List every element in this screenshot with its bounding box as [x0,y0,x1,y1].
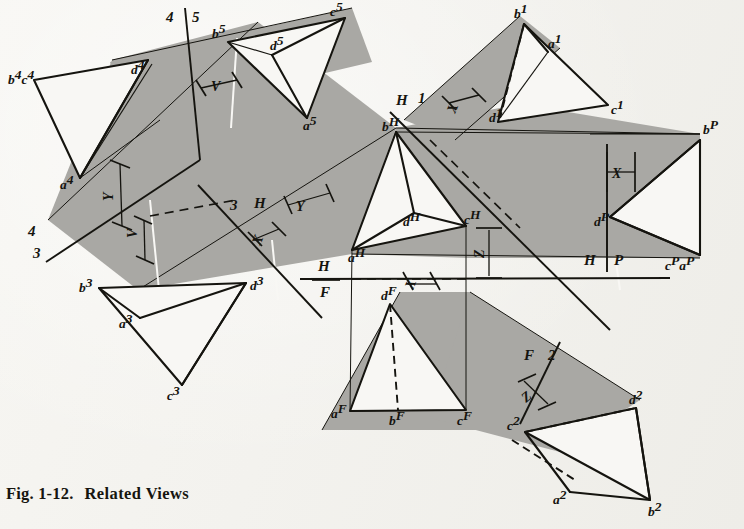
foldlabel-H-1H: H [395,92,409,108]
foldlabel-HF-H: H [317,258,331,274]
view2-label-b2: b2 [648,499,662,519]
caption-number: Fig. 1-12. [6,484,74,503]
foldlabel-HF-F: F [319,284,330,300]
foldlabel-3b: 3 [32,245,41,261]
view1-label-c1: c1 [611,97,624,117]
foldlabel-HP-H: H [583,252,597,268]
viewP-label-bP: bP [703,117,719,137]
view4-label-bc4: b4c4 [8,67,35,87]
foldlabel-HP-P: P [614,252,624,268]
foldlabel-F2-F: F [523,347,534,363]
foldlabel-3: 3 [229,197,238,213]
figure-caption: Fig. 1-12.Related Views [6,484,189,504]
dimlabel-Y-left: Y [101,191,116,201]
figure-root: b4c4 d4 a4 b5 c5 d5 a5 [0,0,744,529]
view3-face [99,283,246,385]
dimlabel-Y-center: Y [296,199,306,214]
view3-label-b3: b3 [79,275,93,295]
view2-label-d2: d2 [629,387,643,407]
dimtick-X-front-2 [430,272,440,290]
view3-label-d3: d3 [250,273,264,293]
view2-label-a2: a2 [553,487,567,507]
foldlabel-F2-2: 2 [547,347,556,363]
foldlabel-5: 5 [192,9,200,25]
related-views-drawing: b4c4 d4 a4 b5 c5 d5 a5 [0,0,744,529]
foldlabel-H-1one: 1 [418,90,426,106]
dimlabel-Z-center: Z [472,249,487,259]
caption-title: Related Views [85,484,190,503]
view3-label-c3: c3 [167,383,180,403]
viewF-label-dF: dF [381,283,397,303]
dimlabel-X-profile: X [611,166,622,181]
foldlabel-H-right: H [253,195,267,211]
foldlabel-4b: 4 [27,223,36,239]
view-3 [99,283,246,385]
foldlabel-4: 4 [165,9,174,25]
